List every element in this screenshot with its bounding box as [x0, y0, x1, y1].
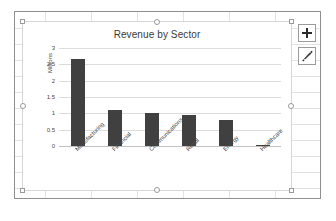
- plus-icon: [299, 25, 315, 41]
- selection-handle-top-right[interactable]: [289, 19, 294, 24]
- selection-handle-top-left[interactable]: [20, 19, 25, 24]
- y-tick-label: 1.5: [47, 94, 55, 100]
- selection-handle-middle-right[interactable]: [288, 103, 294, 109]
- chart-side-buttons[interactable]: [298, 24, 317, 70]
- bar-slot: [170, 48, 207, 146]
- selection-handle-middle-left[interactable]: [20, 103, 26, 109]
- selection-handle-bottom-left[interactable]: [20, 188, 25, 193]
- chart-styles-button[interactable]: [298, 47, 316, 65]
- y-tick-label: 2: [52, 78, 55, 84]
- y-tick-label: 0: [52, 143, 55, 149]
- selection-handle-top-center[interactable]: [154, 19, 160, 25]
- chart-elements-button[interactable]: [298, 24, 316, 42]
- x-axis-tick-labels[interactable]: ManufacturingFinancialCommunicationsReta…: [59, 146, 281, 192]
- y-tick-label: 0.5: [47, 127, 55, 133]
- selection-handle-bottom-right[interactable]: [289, 188, 294, 193]
- y-tick-label: 3: [52, 45, 55, 51]
- chart-object[interactable]: Revenue by Sector Millions 00.511.522.53…: [22, 21, 292, 191]
- bar[interactable]: [71, 59, 85, 146]
- y-tick-label: 1: [52, 110, 55, 116]
- chart-title[interactable]: Revenue by Sector: [23, 29, 291, 40]
- y-tick-label: 2.5: [47, 61, 55, 67]
- selection-handle-bottom-center[interactable]: [154, 187, 160, 193]
- bar-slot: [207, 48, 244, 146]
- worksheet-surface[interactable]: Revenue by Sector Millions 00.511.522.53…: [0, 0, 336, 221]
- paintbrush-icon: [299, 48, 315, 64]
